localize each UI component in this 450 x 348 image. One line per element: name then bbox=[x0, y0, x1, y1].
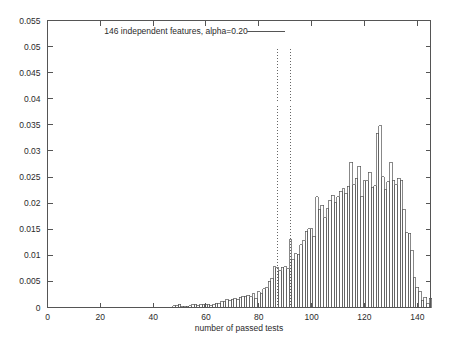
x-axis-ticks: 020406080100120140 bbox=[45, 21, 425, 322]
histogram-bar bbox=[419, 291, 422, 307]
y-tick-label: 0.02 bbox=[24, 198, 41, 208]
histogram-bar bbox=[236, 299, 239, 307]
histogram-bar bbox=[305, 231, 308, 307]
histogram-bar bbox=[345, 193, 348, 307]
histogram-bar bbox=[390, 162, 393, 307]
histogram-bar bbox=[234, 298, 237, 307]
histogram-bars bbox=[173, 126, 432, 308]
histogram-bar bbox=[221, 301, 224, 307]
histogram-bar bbox=[353, 185, 356, 308]
histogram-bar bbox=[310, 229, 313, 308]
histogram-bar bbox=[392, 180, 395, 307]
x-tick-label: 80 bbox=[254, 312, 264, 322]
x-axis-title: number of passed tests bbox=[195, 323, 283, 333]
histogram-bar bbox=[223, 302, 226, 308]
histogram-bar bbox=[379, 126, 382, 308]
histogram-bar bbox=[313, 236, 316, 307]
histogram-bar bbox=[294, 254, 297, 308]
histogram-bar bbox=[226, 299, 229, 307]
histogram-bar bbox=[281, 267, 284, 307]
histogram-chart: 020406080100120140 00.0050.010.0150.020.… bbox=[0, 0, 450, 348]
histogram-bar bbox=[255, 298, 258, 307]
x-tick-label: 140 bbox=[410, 312, 424, 322]
histogram-bar bbox=[326, 209, 329, 308]
y-axis-ticks: 00.0050.010.0150.020.0250.030.0350.040.0… bbox=[19, 16, 430, 313]
histogram-bar bbox=[271, 278, 274, 307]
histogram-bar bbox=[411, 250, 414, 307]
histogram-bar bbox=[331, 195, 334, 307]
histogram-bar bbox=[355, 178, 358, 307]
histogram-bar bbox=[242, 296, 245, 307]
plot-frame bbox=[48, 21, 431, 308]
histogram-bar bbox=[334, 203, 337, 308]
histogram-bar bbox=[268, 281, 271, 307]
histogram-bar bbox=[405, 233, 408, 308]
histogram-bar bbox=[339, 191, 342, 307]
histogram-bar bbox=[427, 303, 430, 307]
histogram-bar bbox=[421, 300, 424, 307]
y-tick-label: 0.05 bbox=[24, 42, 41, 52]
histogram-bar bbox=[387, 182, 390, 308]
chart-legend: 146 independent features, alpha=0.20 bbox=[104, 26, 285, 36]
y-tick-label: 0 bbox=[36, 303, 41, 313]
histogram-bar bbox=[244, 296, 247, 307]
y-tick-label: 0.025 bbox=[19, 172, 41, 182]
y-tick-label: 0.035 bbox=[19, 120, 41, 130]
histogram-bar bbox=[302, 241, 305, 308]
y-tick-label: 0.03 bbox=[24, 146, 41, 156]
histogram-bar bbox=[231, 299, 234, 307]
histogram-bar bbox=[376, 133, 379, 307]
histogram-bar bbox=[371, 187, 374, 307]
chart-canvas: 020406080100120140 00.0050.010.0150.020.… bbox=[0, 0, 450, 348]
histogram-bar bbox=[215, 303, 218, 307]
histogram-bar bbox=[403, 209, 406, 307]
histogram-bar bbox=[424, 297, 427, 307]
histogram-bar bbox=[300, 245, 303, 308]
histogram-bar bbox=[321, 205, 324, 307]
y-tick-label: 0.055 bbox=[19, 16, 41, 26]
histogram-bar bbox=[316, 197, 319, 308]
histogram-bar bbox=[324, 218, 327, 308]
x-tick-label: 120 bbox=[357, 312, 371, 322]
y-tick-label: 0.04 bbox=[24, 94, 41, 104]
histogram-bar bbox=[408, 233, 411, 307]
y-tick-label: 0.015 bbox=[19, 224, 41, 234]
histogram-bar bbox=[366, 181, 369, 308]
histogram-bar bbox=[287, 269, 290, 308]
histogram-bar bbox=[252, 294, 255, 308]
histogram-bar bbox=[228, 300, 231, 307]
histogram-bar bbox=[329, 200, 332, 307]
x-tick-label: 20 bbox=[96, 312, 106, 322]
histogram-bar bbox=[395, 185, 398, 308]
histogram-bar bbox=[382, 177, 385, 308]
x-tick-label: 0 bbox=[45, 312, 50, 322]
y-tick-label: 0.005 bbox=[19, 276, 41, 286]
histogram-bar bbox=[247, 295, 250, 307]
histogram-bar bbox=[265, 288, 268, 308]
histogram-bar bbox=[260, 294, 263, 308]
histogram-bar bbox=[218, 303, 221, 307]
histogram-bar bbox=[368, 172, 371, 307]
histogram-bar bbox=[284, 267, 287, 308]
histogram-bar bbox=[400, 180, 403, 307]
histogram-bar bbox=[342, 189, 345, 308]
histogram-bar bbox=[297, 254, 300, 307]
histogram-bar bbox=[239, 297, 242, 307]
histogram-bar bbox=[363, 181, 366, 308]
histogram-bar bbox=[337, 197, 340, 308]
histogram-bar bbox=[384, 190, 387, 308]
x-tick-label: 60 bbox=[201, 312, 211, 322]
histogram-bar bbox=[308, 229, 311, 308]
histogram-bar bbox=[279, 271, 282, 308]
histogram-bar bbox=[361, 196, 364, 307]
histogram-bar bbox=[413, 278, 416, 308]
histogram-bar bbox=[350, 162, 353, 307]
histogram-bar bbox=[263, 289, 266, 308]
histogram-bar bbox=[318, 209, 321, 307]
histogram-bar bbox=[347, 186, 350, 307]
histogram-bar bbox=[250, 297, 253, 308]
y-tick-label: 0.01 bbox=[24, 250, 41, 260]
histogram-bar bbox=[374, 186, 377, 308]
y-tick-label: 0.045 bbox=[19, 68, 41, 78]
histogram-bar bbox=[397, 178, 400, 307]
